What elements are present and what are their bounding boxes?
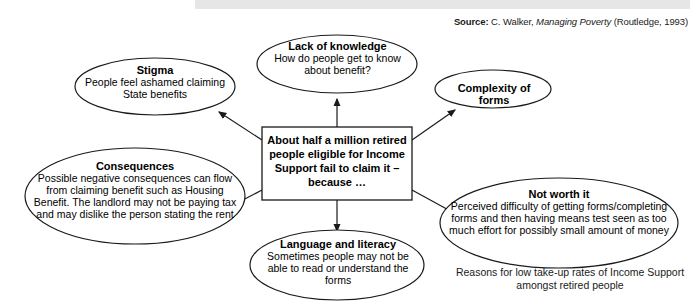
node-ellipse-consequences	[25, 148, 245, 244]
arrow-to-stigma	[219, 112, 262, 140]
diagram-canvas	[0, 0, 696, 305]
diagram-page: Source: C. Walker, Managing Poverty (Rou…	[0, 0, 696, 305]
node-ellipse-complexity	[435, 70, 551, 108]
node-ellipse-lack-of-knowledge	[257, 35, 417, 93]
figure-caption: Reasons for low take-up rates of Income …	[452, 266, 688, 291]
central-statement-box	[262, 127, 412, 200]
node-ellipse-stigma	[75, 58, 235, 115]
node-ellipse-not-worth-it	[440, 178, 678, 268]
node-ellipse-language	[250, 230, 424, 300]
arrow-to-complexity	[412, 110, 455, 140]
